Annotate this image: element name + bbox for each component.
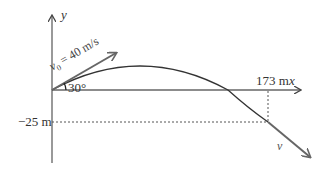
angle-arc: [64, 83, 66, 90]
x-axis-label: x: [289, 74, 295, 87]
final-velocity-label: v: [277, 140, 282, 152]
vertical-drop-label: −25 m: [18, 115, 52, 128]
y-axis-label: y: [61, 8, 67, 21]
final-velocity-arrow: [268, 122, 310, 157]
horizontal-distance-label: 173 m: [256, 74, 289, 87]
launch-angle-label: 30°: [68, 81, 86, 94]
